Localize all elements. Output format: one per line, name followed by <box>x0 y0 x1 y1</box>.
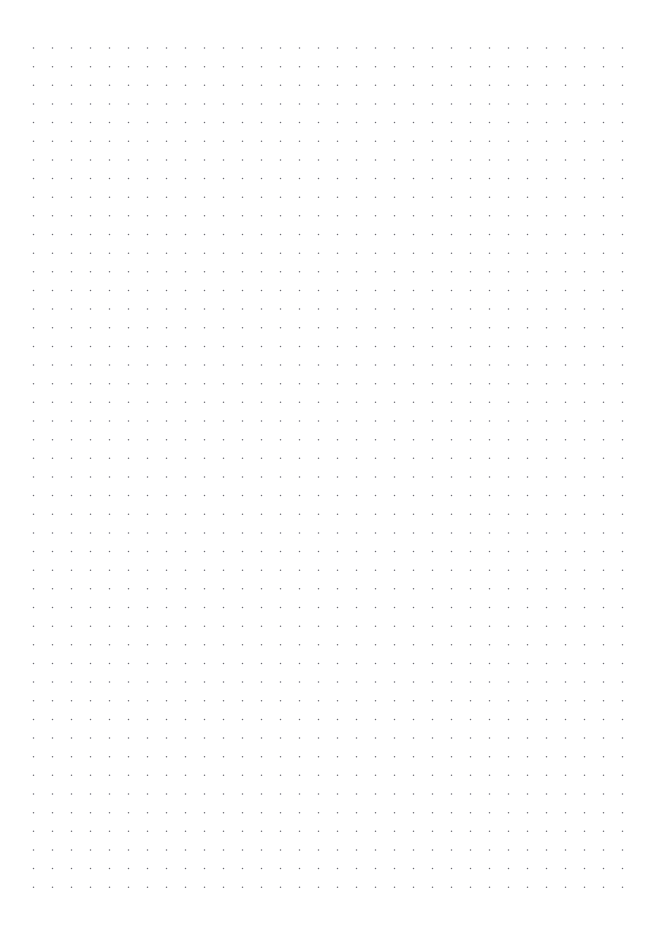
grid-dot <box>337 588 339 590</box>
grid-dot <box>565 122 567 124</box>
grid-dot <box>242 290 244 292</box>
grid-dot <box>147 625 149 627</box>
grid-dot <box>280 569 282 571</box>
grid-dot <box>432 868 434 870</box>
grid-dot <box>166 588 168 590</box>
grid-dot <box>109 775 111 777</box>
grid-dot <box>166 122 168 124</box>
grid-dot <box>204 588 206 590</box>
grid-dot <box>470 681 472 683</box>
grid-dot <box>375 681 377 683</box>
grid-dot <box>603 252 605 254</box>
grid-dot <box>280 66 282 68</box>
grid-dot <box>204 159 206 161</box>
grid-dot <box>375 607 377 609</box>
grid-dot <box>356 85 358 87</box>
grid-dot <box>356 271 358 273</box>
grid-dot <box>489 569 491 571</box>
grid-dot <box>565 141 567 143</box>
grid-dot <box>508 812 510 814</box>
grid-dot <box>508 402 510 404</box>
grid-dot <box>603 85 605 87</box>
grid-dot <box>584 887 586 889</box>
grid-dot <box>584 383 586 385</box>
grid-dot <box>280 215 282 217</box>
grid-dot <box>565 514 567 516</box>
grid-dot <box>470 458 472 460</box>
grid-dot <box>52 47 54 49</box>
grid-dot <box>33 756 35 758</box>
grid-dot <box>451 308 453 310</box>
grid-dot <box>128 868 130 870</box>
grid-dot <box>508 103 510 105</box>
grid-dot <box>52 476 54 478</box>
grid-dot <box>375 569 377 571</box>
grid-dot <box>261 812 263 814</box>
grid-dot <box>584 402 586 404</box>
grid-dot <box>565 849 567 851</box>
grid-dot <box>166 252 168 254</box>
grid-dot <box>508 327 510 329</box>
grid-dot <box>470 402 472 404</box>
grid-dot <box>71 849 73 851</box>
grid-dot <box>261 775 263 777</box>
grid-dot <box>52 887 54 889</box>
grid-dot <box>413 607 415 609</box>
grid-dot <box>90 271 92 273</box>
grid-dot <box>375 383 377 385</box>
grid-dot <box>318 663 320 665</box>
grid-dot <box>603 887 605 889</box>
grid-dot <box>109 607 111 609</box>
grid-dot <box>185 159 187 161</box>
grid-dot <box>356 868 358 870</box>
grid-dot <box>185 196 187 198</box>
grid-dot <box>546 85 548 87</box>
grid-dot <box>489 775 491 777</box>
grid-dot <box>470 719 472 721</box>
grid-dot <box>223 737 225 739</box>
grid-dot <box>546 47 548 49</box>
grid-dot <box>109 66 111 68</box>
grid-dot <box>242 849 244 851</box>
grid-dot <box>166 514 168 516</box>
grid-dot <box>166 458 168 460</box>
grid-dot <box>451 252 453 254</box>
grid-dot <box>508 607 510 609</box>
grid-dot <box>185 383 187 385</box>
grid-dot <box>71 458 73 460</box>
grid-dot <box>432 252 434 254</box>
grid-dot <box>223 364 225 366</box>
grid-dot <box>223 159 225 161</box>
grid-dot <box>223 756 225 758</box>
grid-dot <box>432 719 434 721</box>
grid-dot <box>394 178 396 180</box>
grid-dot <box>223 775 225 777</box>
grid-dot <box>242 607 244 609</box>
grid-dot <box>33 793 35 795</box>
grid-dot <box>508 159 510 161</box>
grid-dot <box>204 532 206 534</box>
grid-dot <box>223 644 225 646</box>
grid-dot <box>584 756 586 758</box>
grid-dot <box>128 532 130 534</box>
grid-dot <box>508 700 510 702</box>
grid-dot <box>413 47 415 49</box>
grid-dot <box>565 290 567 292</box>
grid-dot <box>470 122 472 124</box>
grid-dot <box>337 85 339 87</box>
grid-dot <box>356 476 358 478</box>
grid-dot <box>204 271 206 273</box>
grid-dot <box>242 532 244 534</box>
grid-dot <box>546 868 548 870</box>
grid-dot <box>185 290 187 292</box>
grid-dot <box>204 681 206 683</box>
grid-dot <box>394 103 396 105</box>
grid-dot <box>603 868 605 870</box>
grid-dot <box>223 402 225 404</box>
grid-dot <box>603 532 605 534</box>
grid-dot <box>147 103 149 105</box>
grid-dot <box>356 663 358 665</box>
grid-dot <box>565 196 567 198</box>
grid-dot <box>622 66 624 68</box>
grid-dot <box>318 346 320 348</box>
